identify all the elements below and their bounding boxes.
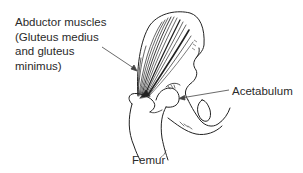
label-abductor-line3: and gluteus xyxy=(15,44,106,59)
abductor-arrow xyxy=(102,47,137,71)
label-abductor-line2: (Gluteus medius xyxy=(15,30,106,45)
label-abductor-line4: minimus) xyxy=(15,59,106,74)
femoral-head xyxy=(156,88,179,107)
pubis-outline xyxy=(188,100,230,126)
femur-shaft-left xyxy=(129,104,140,160)
ilium-inner-line xyxy=(196,48,199,58)
label-abductor-line1: Abductor muscles xyxy=(15,15,106,30)
label-acetabulum: Acetabulum xyxy=(232,84,293,99)
gluteus-muscle-fibers xyxy=(138,17,193,98)
label-abductor-muscles: Abductor muscles (Gluteus medius and glu… xyxy=(15,15,106,73)
obturator-foramen xyxy=(198,100,211,121)
label-femur: Femur xyxy=(132,153,165,168)
